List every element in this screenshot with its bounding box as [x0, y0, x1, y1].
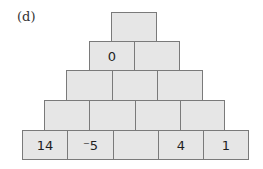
pyramid-cell: [134, 41, 180, 71]
pyramid-cell: [180, 100, 225, 131]
figure-label: (d): [17, 9, 35, 24]
pyramid-cell: 14: [22, 130, 68, 160]
pyramid-cell: [89, 100, 136, 131]
pyramid-cell: 1: [203, 130, 249, 160]
pyramid-cell: [112, 70, 158, 101]
pyramid-cell: [157, 70, 203, 101]
pyramid-cell: ⁻5: [67, 130, 114, 160]
pyramid-cell: [111, 12, 157, 42]
pyramid-cell: 4: [158, 130, 204, 160]
pyramid-cell: [66, 70, 113, 101]
pyramid-cell: [113, 130, 159, 160]
pyramid-cell: 0: [89, 41, 135, 71]
pyramid-cell: [135, 100, 181, 131]
pyramid-cell: [44, 100, 90, 131]
